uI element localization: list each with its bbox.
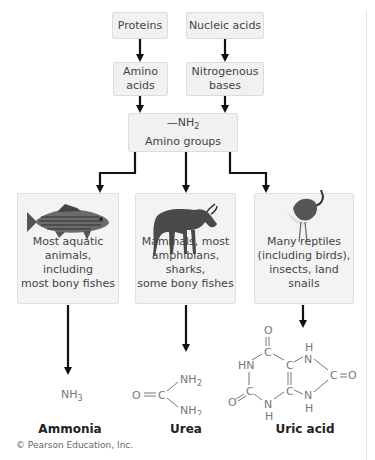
amino-group-formula: —NH2 xyxy=(167,116,200,134)
uric-acid-label: Uric acid xyxy=(260,422,350,436)
svg-text:C: C xyxy=(286,359,294,372)
copyright-credit: © Pearson Education, Inc. xyxy=(16,440,133,450)
svg-text:2: 2 xyxy=(197,410,202,415)
svg-text:2: 2 xyxy=(197,379,202,388)
proteins-label: Proteins xyxy=(118,19,162,33)
mammals-label: Mammals, most amphibians, sharks, some b… xyxy=(136,235,235,291)
amino-groups-label: Amino groups xyxy=(145,135,221,149)
svg-text:NH: NH xyxy=(180,373,197,386)
nitrogenous-bases-label-1: Nitrogenous xyxy=(192,65,259,79)
amino-acids-label-2: acids xyxy=(126,79,155,93)
mammals-box: Mammals, most amphibians, sharks, some b… xyxy=(135,193,236,304)
nitrogenous-bases-box: Nitrogenous bases xyxy=(186,62,264,96)
svg-text:N: N xyxy=(304,389,312,402)
urea-label: Urea xyxy=(146,422,226,436)
nucleic-acids-box: Nucleic acids xyxy=(186,12,264,39)
svg-text:C: C xyxy=(246,385,254,398)
svg-text:C: C xyxy=(330,369,338,382)
urea-structure: O C NH2 NH2 xyxy=(130,365,210,415)
aquatic-animals-box: Most aquatic animals, including most bon… xyxy=(17,193,119,304)
amino-acids-box: Amino acids xyxy=(113,62,168,96)
svg-text:O: O xyxy=(228,396,237,409)
svg-text:C: C xyxy=(286,385,294,398)
proteins-box: Proteins xyxy=(112,12,168,39)
svg-text:H: H xyxy=(305,402,313,415)
amino-groups-box: —NH2 Amino groups xyxy=(128,113,238,152)
svg-text:O: O xyxy=(348,369,357,382)
svg-text:NH: NH xyxy=(180,404,197,415)
ammonia-formula: NH3 xyxy=(61,388,83,403)
svg-text:C: C xyxy=(158,389,166,402)
nucleic-acids-label: Nucleic acids xyxy=(189,19,261,33)
svg-text:C: C xyxy=(264,346,272,359)
svg-text:N: N xyxy=(304,353,312,366)
ammonia-label: Ammonia xyxy=(30,422,110,436)
svg-text:HN: HN xyxy=(238,359,255,372)
aquatic-animals-label: Most aquatic animals, including most bon… xyxy=(18,235,118,291)
amino-acids-label-1: Amino xyxy=(123,65,158,79)
reptiles-label: Many reptiles (including birds), insects… xyxy=(255,235,353,291)
uric-acid-structure: O C HN C NH C O C NH NH C O xyxy=(222,322,362,422)
reptiles-box: Many reptiles (including birds), insects… xyxy=(254,193,354,304)
nitrogenous-bases-label-2: bases xyxy=(209,79,241,93)
svg-text:H: H xyxy=(305,341,313,354)
svg-text:O: O xyxy=(264,324,273,337)
svg-text:O: O xyxy=(132,389,141,402)
svg-text:H: H xyxy=(265,410,273,422)
